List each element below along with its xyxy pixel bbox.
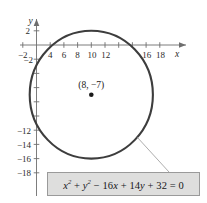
x-axis-arrowhead [179, 42, 186, 48]
x-tick-label-10: 10 [88, 50, 98, 60]
x-tick-label-4: 4 [48, 50, 53, 60]
y-tick-label--16: −16 [17, 154, 32, 164]
center-point-dot [89, 92, 94, 97]
y-axis-arrowhead [34, 19, 40, 26]
x-tick-label-6: 6 [62, 50, 67, 60]
circle-graph-figure: −2 4 6 8 10 12 16 18 2 −2 −12 −14 −16 −1… [0, 0, 207, 203]
y-tick-label--14: −14 [17, 140, 32, 150]
equation-x-exponent: 2 [68, 178, 71, 185]
x-tick-label-16: 16 [142, 50, 152, 60]
y-tick-label--2: −2 [23, 55, 33, 65]
center-point-label: (8, −7) [78, 80, 104, 91]
y-axis-label: y [27, 16, 33, 26]
x-tick-label-8: 8 [75, 50, 80, 60]
equation-remainder: − 16x + 14y + 32 = 0 [94, 179, 184, 190]
y-tick-label-2: 2 [26, 26, 31, 36]
x-tick-label-18: 18 [156, 50, 166, 60]
y-tick-label--18: −18 [17, 168, 32, 178]
x-tick-label-12: 12 [101, 50, 110, 60]
y-tick-label--12: −12 [17, 126, 31, 136]
x-axis-label: x [174, 49, 180, 59]
equation-text: x2 + y2 − 16x + 14y + 32 = 0 [63, 178, 184, 191]
equation-callout-box: x2 + y2 − 16x + 14y + 32 = 0 [47, 172, 200, 196]
callout-leader-line [137, 137, 169, 172]
equation-y-exponent: 2 [88, 178, 91, 185]
